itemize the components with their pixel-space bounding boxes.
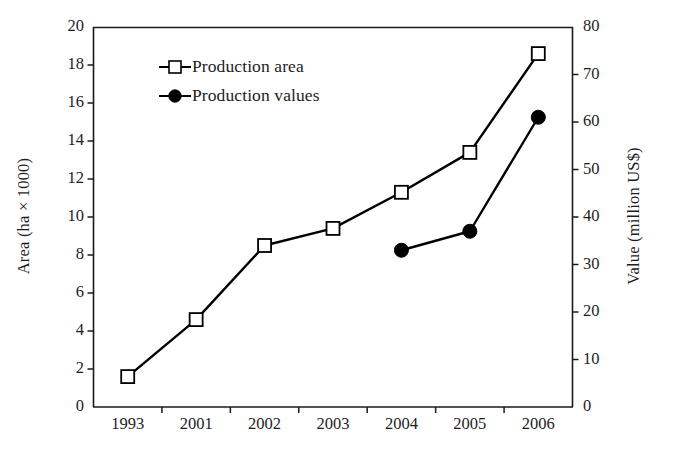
filled-circle-icon: [158, 87, 192, 105]
open-square-icon: [158, 58, 192, 76]
tick-marks: [88, 65, 579, 413]
legend-item-production-values: Production values: [158, 81, 418, 110]
data-point-marker-filled-circle: [463, 224, 477, 238]
data-point-marker-open-square: [258, 239, 271, 252]
data-point-marker-filled-circle: [531, 110, 545, 124]
data-point-marker-open-square: [190, 313, 203, 326]
legend-item-production-area: Production area: [158, 52, 418, 81]
data-point-marker-open-square: [121, 370, 134, 383]
data-point-marker-filled-circle: [394, 243, 408, 257]
chart-legend: Production area Production values: [158, 52, 418, 110]
data-point-marker-open-square: [532, 47, 545, 60]
data-point-marker-open-square: [327, 222, 340, 235]
legend-label-production-area: Production area: [192, 56, 304, 77]
data-point-marker-open-square: [395, 186, 408, 199]
data-point-marker-open-square: [463, 146, 476, 159]
chart-figure: Area (ha × 1000) Value (million US$) 024…: [0, 0, 677, 458]
legend-label-production-values: Production values: [192, 85, 320, 106]
